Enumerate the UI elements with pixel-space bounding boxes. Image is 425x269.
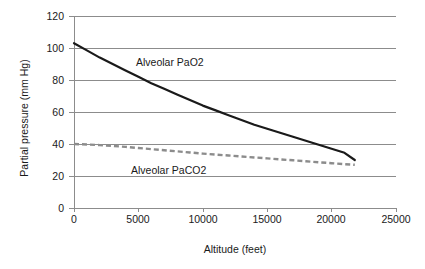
series-annotation-paco2: Alveolar PaCO2 [131,165,206,176]
chart-curves [0,0,425,269]
chart-container: .gridline{left:74px;width:322px;} 120 10… [0,0,425,269]
series-line-paco2 [74,144,355,165]
series-line-pao2 [74,43,355,160]
series-annotation-pao2: Alveolar PaO2 [136,57,204,68]
